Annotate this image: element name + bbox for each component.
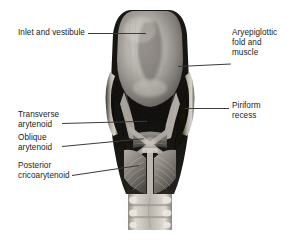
larynx-illustration [100, 8, 200, 230]
figure-root: Inlet and vestibule Aryepiglottic fold a… [0, 0, 296, 246]
label-posterior-cricoarytenoid: Posterior cricoarytenoid [18, 161, 70, 181]
label-inlet-and-vestibule: Inlet and vestibule [18, 28, 85, 38]
larynx-photograph [100, 8, 200, 230]
label-oblique-arytenoid: Oblique arytenoid [18, 133, 52, 153]
label-aryepiglottic-fold-and-muscle: Aryepiglottic fold and muscle [232, 28, 277, 59]
leader-line-inlet [88, 33, 146, 34]
leader-line-piriform [185, 108, 229, 109]
trachea [128, 194, 172, 230]
label-piriform-recess: Piriform recess [232, 101, 261, 121]
label-transverse-arytenoid: Transverse arytenoid [18, 110, 59, 130]
